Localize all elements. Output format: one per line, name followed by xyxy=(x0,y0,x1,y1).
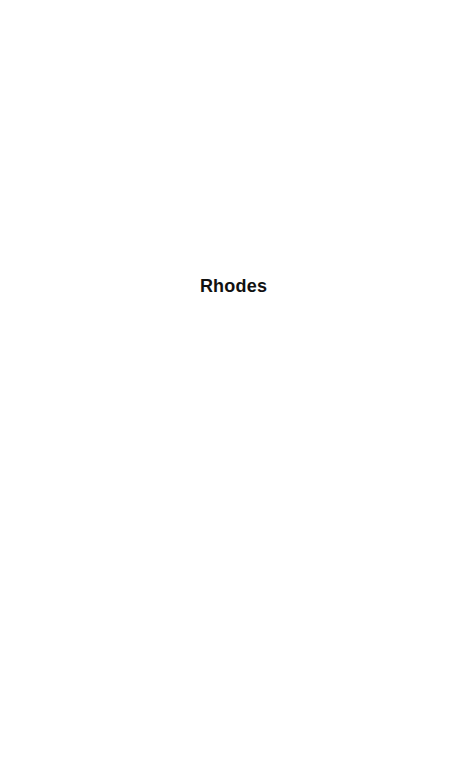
place-label-rhodes: Rhodes xyxy=(0,275,467,297)
map-canvas[interactable]: Rhodes xyxy=(0,0,473,766)
